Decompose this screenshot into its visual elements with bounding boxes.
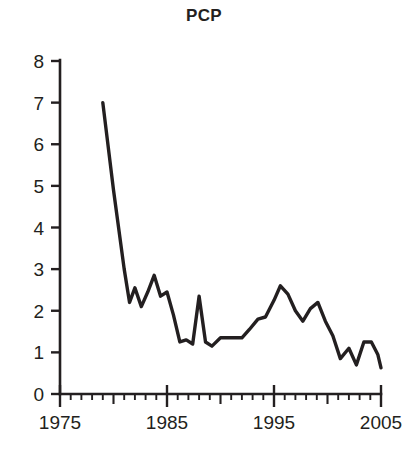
chart-plot-area: 012345678 1975198519952005	[0, 0, 408, 453]
x-tick-label-2005: 2005	[360, 412, 402, 433]
data-series-line	[103, 103, 381, 368]
chart-figure: PCP 012345678 1975198519952005	[0, 0, 408, 453]
x-axis-labels: 1975198519952005	[39, 412, 402, 433]
y-axis-ticks	[51, 61, 60, 394]
y-tick-label-3: 3	[33, 259, 44, 280]
y-axis-labels: 012345678	[33, 51, 44, 405]
x-axis-ticks	[60, 385, 381, 407]
y-tick-label-5: 5	[33, 176, 44, 197]
y-tick-label-8: 8	[33, 51, 44, 72]
y-tick-label-0: 0	[33, 384, 44, 405]
y-tick-label-2: 2	[33, 301, 44, 322]
x-tick-label-1985: 1985	[146, 412, 188, 433]
x-tick-label-1995: 1995	[253, 412, 295, 433]
x-tick-label-1975: 1975	[39, 412, 81, 433]
y-tick-label-1: 1	[33, 342, 44, 363]
y-tick-label-7: 7	[33, 93, 44, 114]
y-tick-label-6: 6	[33, 134, 44, 155]
y-tick-label-4: 4	[33, 218, 44, 239]
